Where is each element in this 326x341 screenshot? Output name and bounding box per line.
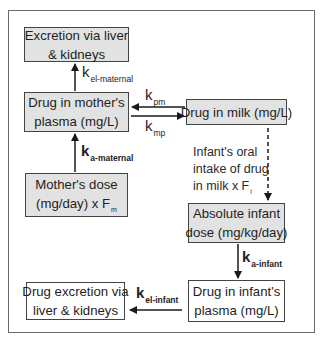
box-maternal-excretion-line-2: & kidneys: [48, 45, 105, 64]
box-infant-dose-line-1: Absolute infant: [193, 204, 280, 223]
oral-intake-line-3: in milk x Fi: [193, 178, 269, 196]
box-maternal-dose-line-1: Mother's dose: [35, 175, 117, 194]
label-k-a-maternal: ka-maternal: [81, 142, 133, 160]
box-milk: Drug in milk (mg/L): [186, 99, 287, 125]
label-k-el-maternal: kel-maternal: [82, 63, 133, 81]
box-maternal-plasma: Drug in mother's plasma (mg/L): [24, 92, 129, 132]
oral-intake-note: Infant's oral intake of drug in milk x F…: [193, 144, 269, 196]
label-k-mp: kmp: [145, 117, 165, 135]
box-maternal-plasma-line-2: plasma (mg/L): [34, 112, 118, 131]
box-infant-excretion: Drug excretion via liver & kidneys: [26, 282, 125, 320]
box-maternal-excretion-line-1: Excretion via liver: [25, 26, 128, 45]
fm-subscript: m: [111, 206, 117, 213]
box-maternal-dose-line-2: (mg/day) x Fm: [36, 194, 117, 215]
box-infant-excretion-line-2: liver & kidneys: [33, 301, 118, 320]
oral-intake-line-2: intake of drug: [193, 161, 269, 178]
box-milk-label: Drug in milk (mg/L): [181, 103, 292, 122]
maternal-dose-formula: (mg/day) x F: [36, 196, 110, 211]
box-infant-dose: Absolute infant dose (mg/kg/day): [188, 203, 285, 243]
oral-intake-line-1: Infant's oral: [193, 144, 269, 161]
box-infant-plasma: Drug in infant's plasma (mg/L): [188, 280, 285, 322]
label-k-pm: kpm: [145, 86, 165, 104]
box-infant-excretion-line-1: Drug excretion via: [22, 282, 128, 301]
label-k-el-infant: kel-infant: [136, 284, 178, 302]
label-k-a-infant: ka-infant: [242, 248, 282, 266]
box-infant-plasma-line-2: plasma (mg/L): [194, 301, 278, 320]
box-maternal-excretion: Excretion via liver & kidneys: [24, 27, 129, 62]
box-maternal-dose: Mother's dose (mg/day) x Fm: [25, 173, 128, 217]
box-infant-dose-line-2: dose (mg/kg/day): [186, 223, 288, 242]
box-infant-plasma-line-1: Drug in infant's: [193, 282, 281, 301]
box-maternal-plasma-line-1: Drug in mother's: [28, 93, 124, 112]
